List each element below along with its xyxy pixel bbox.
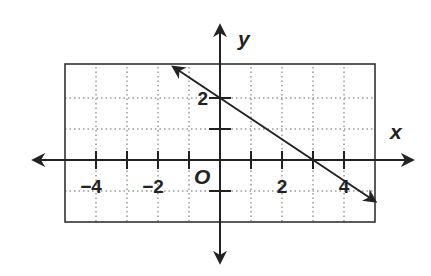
y-tick-label: 2 [197, 88, 208, 109]
origin-label: O [194, 165, 210, 188]
x-tick-label: 4 [339, 176, 350, 197]
x-tick-label: −4 [80, 176, 102, 197]
x-tick-label: −2 [142, 176, 164, 197]
coordinate-plane: −4−2242 x y O [0, 0, 431, 276]
y-axis-label: y [237, 27, 251, 50]
x-tick-label: 2 [277, 176, 288, 197]
x-axis-label: x [389, 120, 403, 143]
